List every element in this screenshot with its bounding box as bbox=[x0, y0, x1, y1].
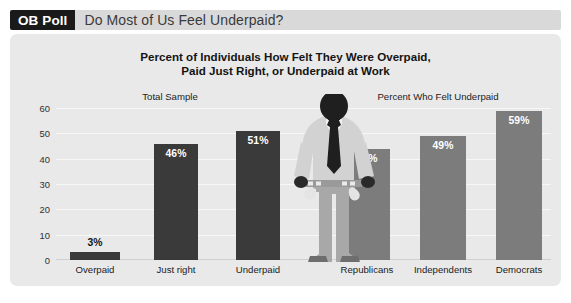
bar-just-right: 46% bbox=[154, 144, 198, 261]
right-empty-pocket bbox=[349, 187, 360, 200]
y-tick-60: 60 bbox=[10, 103, 50, 114]
y-tick-40: 40 bbox=[10, 153, 50, 164]
belt-detail-2 bbox=[316, 182, 321, 186]
poll-infographic: OB Poll Do Most of Us Feel Underpaid? Pe… bbox=[0, 0, 571, 303]
x-label-independents: Independents bbox=[404, 264, 482, 275]
y-tick-30: 30 bbox=[10, 179, 50, 190]
chart-title: Percent of Individuals How Felt They Wer… bbox=[10, 50, 561, 78]
headline: Do Most of Us Feel Underpaid? bbox=[75, 10, 283, 30]
x-axis-labels: Overpaid Just right Underpaid Republican… bbox=[56, 264, 551, 280]
bar-value-overpaid: 3% bbox=[70, 237, 120, 248]
left-hand bbox=[294, 176, 308, 188]
brand-badge: OB Poll bbox=[10, 10, 75, 30]
x-label-democrats: Democrats bbox=[484, 264, 554, 275]
trousers-shape bbox=[313, 186, 355, 262]
belt-detail-4 bbox=[350, 182, 355, 186]
belt-detail-1 bbox=[308, 182, 313, 186]
chart-title-line-1: Percent of Individuals How Felt They Wer… bbox=[10, 50, 561, 64]
bar-value-independents: 49% bbox=[420, 140, 466, 151]
chart-panel: Percent of Individuals How Felt They Wer… bbox=[10, 34, 561, 286]
chart-title-line-2: Paid Just Right, or Underpaid at Work bbox=[10, 64, 561, 78]
businessman-empty-pockets-icon bbox=[286, 94, 388, 264]
x-label-republicans: Republicans bbox=[328, 264, 406, 275]
x-label-overpaid: Overpaid bbox=[60, 264, 130, 275]
left-shoe bbox=[308, 256, 328, 262]
y-tick-50: 50 bbox=[10, 128, 50, 139]
belt-detail-3 bbox=[342, 182, 347, 186]
bar-independents: 49% bbox=[420, 136, 466, 260]
group-label-total-sample: Total Sample bbox=[70, 91, 270, 102]
bar-value-underpaid: 51% bbox=[236, 135, 280, 146]
left-empty-pocket bbox=[304, 187, 316, 199]
bar-value-democrats: 59% bbox=[496, 115, 542, 126]
bar-overpaid: 3% bbox=[70, 252, 120, 260]
bar-underpaid: 51% bbox=[236, 131, 280, 260]
bar-value-just-right: 46% bbox=[154, 148, 198, 159]
y-tick-20: 20 bbox=[10, 204, 50, 215]
right-shoe bbox=[340, 256, 360, 262]
y-tick-10: 10 bbox=[10, 229, 50, 240]
x-label-underpaid: Underpaid bbox=[223, 264, 293, 275]
x-label-just-right: Just right bbox=[141, 264, 211, 275]
header-bar: OB Poll Do Most of Us Feel Underpaid? bbox=[10, 10, 561, 30]
y-tick-0: 0 bbox=[10, 255, 50, 266]
bar-democrats: 59% bbox=[496, 111, 542, 261]
right-hand bbox=[361, 176, 375, 188]
